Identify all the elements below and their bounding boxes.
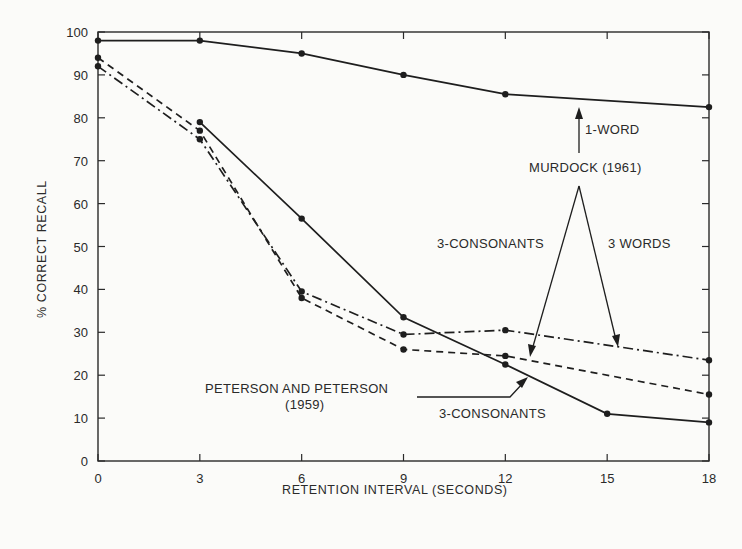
y-tick-label: 70 — [74, 154, 88, 169]
annotation-murdock: MURDOCK (1961) — [529, 160, 642, 175]
data-point — [400, 331, 406, 337]
data-point — [197, 119, 203, 125]
annotation-peterson: PETERSON AND PETERSON — [205, 381, 388, 396]
data-point — [502, 361, 508, 367]
data-point — [298, 295, 304, 301]
series-solid-0 — [95, 37, 712, 110]
arrow-murdock-3-words — [579, 186, 620, 347]
chart: 0102030405060708090100 0369121518 1-WORD… — [0, 0, 742, 549]
annotation-3-words: 3 WORDS — [608, 236, 671, 251]
y-tick-label: 20 — [74, 368, 88, 383]
y-tick-label: 10 — [74, 411, 88, 426]
data-point — [604, 411, 610, 417]
data-point — [298, 50, 304, 56]
data-point — [706, 357, 712, 363]
data-point — [502, 353, 508, 359]
x-axis-title: RETENTION INTERVAL (SECONDS) — [282, 483, 508, 497]
y-tick-label: 60 — [74, 197, 88, 212]
annotation-3-consonants-peterson: 3-CONSONANTS — [439, 406, 546, 421]
data-point — [706, 104, 712, 110]
y-tick-label: 50 — [74, 240, 88, 255]
data-point — [400, 314, 406, 320]
y-tick-label: 80 — [74, 111, 88, 126]
y-tick-label: 30 — [74, 325, 88, 340]
y-tick-label: 90 — [74, 68, 88, 83]
data-point — [400, 72, 406, 78]
arrow-murdock-3-consonants — [528, 186, 579, 357]
data-point — [502, 327, 508, 333]
x-tick-label: 15 — [600, 471, 614, 486]
plot-series — [95, 37, 712, 425]
arrow-1-word — [575, 107, 583, 153]
x-axis-ticks: 0369121518 — [94, 32, 716, 486]
data-point — [95, 55, 101, 61]
data-point — [400, 346, 406, 352]
data-point — [298, 288, 304, 294]
annotation-peterson-year: (1959) — [285, 397, 324, 412]
data-point — [298, 215, 304, 221]
series-dashed-2 — [95, 55, 712, 398]
y-axis-title: % CORRECT RECALL — [35, 180, 49, 318]
data-point — [706, 391, 712, 397]
x-tick-label: 0 — [94, 471, 101, 486]
data-point — [502, 91, 508, 97]
x-tick-label: 18 — [702, 471, 716, 486]
y-tick-label: 100 — [66, 25, 88, 40]
y-tick-label: 0 — [81, 454, 88, 469]
x-tick-label: 3 — [196, 471, 203, 486]
annotation-3-consonants-murdock: 3-CONSONANTS — [437, 236, 544, 251]
data-point — [197, 37, 203, 43]
arrow-peterson — [417, 377, 528, 397]
data-point — [197, 136, 203, 142]
data-point — [95, 63, 101, 69]
y-tick-label: 40 — [74, 282, 88, 297]
annotation-1-word: 1-WORD — [585, 122, 640, 137]
data-point — [197, 127, 203, 133]
data-point — [95, 37, 101, 43]
data-point — [706, 419, 712, 425]
